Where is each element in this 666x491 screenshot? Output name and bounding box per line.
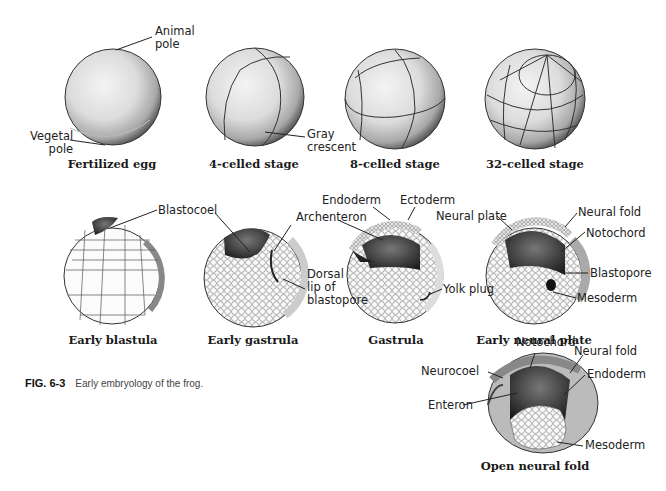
label-neural-fold-enp: Neural fold <box>578 206 641 219</box>
early-neural-plate-illustration <box>486 213 588 324</box>
caption-early-gastrula: Early gastrula <box>208 333 299 347</box>
label-endoderm-onf: Endoderm <box>587 368 646 381</box>
caption-open-neural-fold: Open neural fold <box>481 459 590 473</box>
figure-number: FIG. 6-3 <box>25 377 65 389</box>
caption-eight-celled: 8-celled stage <box>350 157 440 171</box>
thirtytwo-celled-illustration <box>485 49 585 149</box>
caption-early-blastula: Early blastula <box>68 333 157 347</box>
early-blastula-illustration <box>64 210 162 325</box>
open-neural-fold-illustration <box>463 353 598 453</box>
label-gray-crescent: Graycrescent <box>307 128 356 154</box>
four-celled-illustration <box>206 48 305 146</box>
caption-four-celled: 4-celled stage <box>209 157 299 171</box>
caption-early-neural-plate: Early neural plate <box>476 333 592 347</box>
label-neurocoel: Neurocoel <box>421 365 479 378</box>
frog-embryology-figure <box>0 0 666 491</box>
caption-thirtytwo-celled: 32-celled stage <box>486 157 584 171</box>
label-blastocoel: Blastocoel <box>158 204 217 217</box>
label-animal-pole: Animalpole <box>155 25 195 51</box>
figure-caption: FIG. 6-3Early embryology of the frog. <box>25 377 203 389</box>
label-neural-plate: Neural plate <box>436 210 507 223</box>
label-vegetal-pole: Vegetalpole <box>30 130 73 156</box>
label-endoderm-gastrula: Endoderm <box>322 194 381 207</box>
label-ectoderm-gastrula: Ectoderm <box>400 194 455 207</box>
label-mesoderm-enp: Mesoderm <box>577 292 637 305</box>
fertilized-egg-illustration <box>65 37 161 145</box>
eight-celled-illustration <box>345 49 445 149</box>
caption-gastrula: Gastrula <box>368 333 423 347</box>
label-notochord-enp: Notochord <box>586 227 646 240</box>
label-dorsal-lip: Dorsallip ofblastopore <box>307 268 368 307</box>
early-gastrula-illustration <box>204 213 305 327</box>
label-archenteron: Archenteron <box>296 211 367 224</box>
label-mesoderm-onf: Mesoderm <box>585 439 645 452</box>
caption-fertilized-egg: Fertilized egg <box>68 157 157 171</box>
figure-caption-text: Early embryology of the frog. <box>75 378 203 389</box>
label-yolk-plug: Yolk plug <box>443 283 494 296</box>
label-blastopore: Blastopore <box>590 267 652 280</box>
label-enteron: Enteron <box>428 399 473 412</box>
